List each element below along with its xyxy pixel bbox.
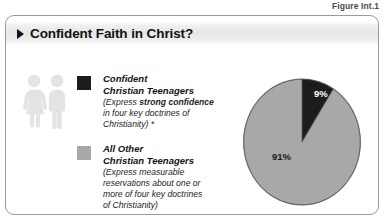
triangle-right-icon [17,29,24,39]
two-people-icon [19,71,71,129]
legend-swatch-dark [76,75,92,91]
legend-title-line-2: Christian Teenagers [103,155,216,167]
legend-title-line-1: All Other [103,143,216,155]
legend-desc-line-3: Christianity) * [103,119,216,130]
legend-desc-line-1: (Express measurable [103,167,216,178]
legend-item-all-other: All Other Christian Teenagers (Express m… [76,143,216,211]
figure-number-label: Figure Int.1 [332,1,379,11]
pie-chart: 9% 91% [242,78,362,207]
legend-title-line-1: Confident [103,73,216,85]
legend-desc-emphasis: strong confidence [139,97,214,107]
legend-description: (Express strong confidence in four key d… [103,97,216,130]
pie-value-label-dark: 9% [314,88,328,99]
legend-desc-line-2: reservations about one or [103,178,216,189]
legend-desc-line-2: in four key doctrines of [103,108,216,119]
legend-item-confident: Confident Christian Teenagers (Express s… [76,73,216,130]
legend-desc-line-4: of Christianity) [103,200,216,211]
legend-desc-prefix: (Express [103,97,139,107]
legend-title-line-2: Christian Teenagers [103,85,216,97]
pie-value-label-light: 91% [272,151,291,162]
legend-desc-line-3: more of four key doctrines [103,189,216,200]
figure-card: Confident Faith in Christ? Confident Chr… [5,15,379,215]
page-title: Confident Faith in Christ? [30,26,193,41]
legend-description: (Express measurable reservations about o… [103,167,216,211]
card-header: Confident Faith in Christ? [6,22,378,45]
pie-slice [244,79,361,205]
legend-swatch-gray [76,145,92,161]
